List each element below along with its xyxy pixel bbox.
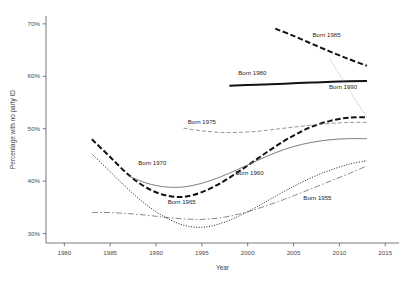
y-tick-label: 40% (28, 177, 41, 184)
series-line-born-1955 (92, 166, 367, 220)
x-tick-label: 2000 (241, 249, 255, 256)
x-axis-title: Year (216, 264, 230, 271)
y-tick-label: 60% (28, 72, 41, 79)
y-axis-ticks: 30%40%50%60%70% (28, 20, 46, 237)
series-label-born-1990: Born 1990 (329, 83, 358, 90)
series-label-born-1970: Born 1970 (138, 159, 167, 166)
x-tick-label: 1990 (149, 249, 163, 256)
x-tick-label: 1980 (57, 249, 71, 256)
y-tick-label: 50% (28, 125, 41, 132)
chart-container: 30%40%50%60%70% 198019851990199520002005… (0, 0, 406, 285)
x-tick-label: 2015 (378, 249, 392, 256)
series-label-born-1980: Born 1980 (238, 69, 267, 76)
x-tick-label: 1995 (195, 249, 209, 256)
series-line-born-1960 (92, 154, 367, 227)
series-label-born-1985: Born 1985 (313, 31, 342, 38)
x-tick-label: 2010 (333, 249, 347, 256)
series-label-born-1955: Born 1955 (303, 194, 332, 201)
x-tick-label: 2005 (287, 249, 301, 256)
series-label-born-1975: Born 1975 (188, 118, 217, 125)
x-tick-label: 1985 (103, 249, 117, 256)
y-tick-label: 30% (28, 230, 41, 237)
y-tick-label: 70% (28, 20, 41, 27)
x-axis-ticks: 19801985199019952000200520102015 (57, 243, 392, 256)
series-label-born-1965: Born 1965 (168, 198, 197, 205)
line-chart: 30%40%50%60%70% 198019851990199520002005… (0, 0, 406, 285)
series-label-born-1960: Born 1960 (235, 169, 264, 176)
series-annotations: Born 1955Born 1960Born 1965Born 1970Born… (138, 31, 357, 204)
series-line-born-1965 (92, 117, 367, 197)
y-axis-title: Percentage with no party ID (9, 90, 17, 169)
